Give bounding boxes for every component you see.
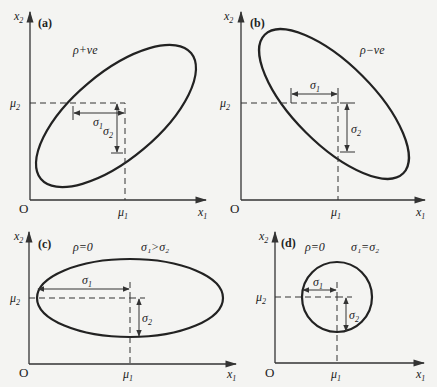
- origin-label: O: [265, 365, 274, 380]
- y-axis-label: x2: [13, 9, 23, 25]
- mu2-label: μ2: [9, 96, 20, 112]
- panel-label: (c): [38, 237, 51, 251]
- mu1-label: μ1: [117, 205, 128, 221]
- mu1-label: μ1: [330, 367, 341, 383]
- contour-ellipse: [13, 20, 218, 212]
- x-axis-label: x1: [415, 205, 425, 221]
- contour-ellipse: [236, 6, 431, 201]
- sigma2-label: σ2: [103, 124, 113, 140]
- sigma2-label: σ2: [349, 308, 359, 324]
- y-axis-label: x2: [223, 9, 233, 25]
- sigma1-label: σ1: [310, 78, 320, 94]
- correlation-label: ρ−ve: [359, 43, 385, 57]
- panel-d: x2 x1 O (d) ρ=0 σ₁=σ₂ μ2 μ1 σ1 σ2: [255, 229, 425, 383]
- mu2-label: μ2: [9, 291, 20, 307]
- panel-c: x2 x1 O (c) ρ=0 σ₁>σ₂ μ2 μ1 σ1 σ2: [9, 229, 236, 383]
- origin-label: O: [230, 201, 239, 216]
- sigma2-label: σ2: [142, 311, 152, 327]
- panel-label: (b): [250, 16, 265, 30]
- sigma-relation-label: σ₁>σ₂: [141, 240, 169, 254]
- sigma1-label: σ1: [93, 115, 103, 131]
- panel-label: (d): [281, 236, 296, 250]
- origin-label: O: [19, 201, 28, 216]
- x-axis-label: x1: [415, 367, 425, 383]
- mu1-label: μ1: [330, 205, 341, 221]
- y-axis-label: x2: [13, 229, 23, 245]
- mu2-label: μ2: [255, 290, 266, 306]
- sigma2-label: σ2: [351, 122, 361, 138]
- mu1-label: μ1: [122, 367, 133, 383]
- panel-a: x2 x1 O (a) ρ+ve μ2 μ1 σ1 σ2: [9, 9, 219, 221]
- mu2-label: μ2: [219, 96, 230, 112]
- sigma1-label: σ1: [82, 273, 92, 289]
- panel-b: x2 x1 O (b) ρ−ve μ2 μ1 σ1 σ2: [219, 6, 432, 221]
- y-axis-label: x2: [258, 229, 268, 245]
- correlation-label: ρ+ve: [72, 43, 98, 57]
- correlation-label: ρ=0: [304, 240, 325, 254]
- correlation-label: ρ=0: [72, 240, 93, 254]
- mean-guides: [241, 103, 338, 200]
- origin-label: O: [19, 365, 28, 380]
- panel-label: (a): [38, 16, 52, 30]
- x-axis-label: x1: [226, 367, 236, 383]
- x-axis-label: x1: [197, 205, 207, 221]
- sigma1-label: σ1: [313, 275, 323, 291]
- sigma-relation-label: σ₁=σ₂: [351, 240, 379, 254]
- bivariate-normal-contours-figure: x2 x1 O (a) ρ+ve μ2 μ1 σ1 σ2 x2 x1 O (b)…: [0, 0, 437, 387]
